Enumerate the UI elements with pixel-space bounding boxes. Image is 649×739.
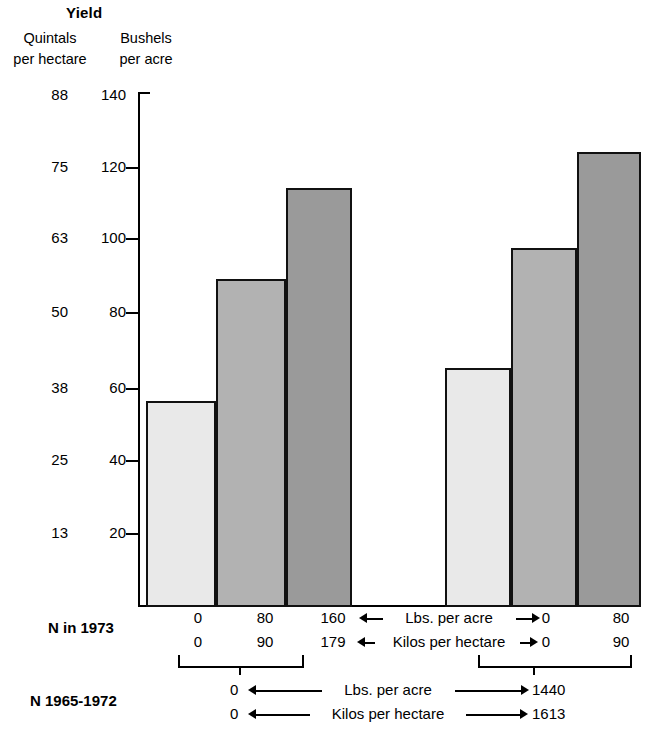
y-axis-right-tick-label: 20 bbox=[80, 524, 126, 541]
y-axis-line bbox=[138, 92, 140, 607]
n1973-kilos-unit: Kilos per hectare bbox=[374, 633, 524, 650]
n1973-left-lbs-0: 0 bbox=[176, 609, 220, 626]
n6572-lbs-start: 0 bbox=[230, 681, 238, 698]
chart-title: Yield bbox=[66, 4, 102, 21]
n1973-left-kilos-90: 90 bbox=[243, 633, 287, 650]
y-axis-left-tick-label: 25 bbox=[10, 451, 68, 468]
bar-group1-0[interactable] bbox=[146, 401, 216, 607]
y-axis-left-tick-label: 88 bbox=[10, 86, 68, 103]
arrow-right-icon bbox=[521, 685, 529, 695]
n1973-left-lbs-80: 80 bbox=[243, 609, 287, 626]
n1973-right-kilos-90: 90 bbox=[599, 633, 643, 650]
y-axis-right-tick-label: 60 bbox=[80, 379, 126, 396]
bar-group2-0[interactable] bbox=[445, 368, 511, 607]
n1973-right-lbs-80: 80 bbox=[599, 609, 643, 626]
group-bracket-left-stem bbox=[239, 666, 241, 675]
n6572-lbs-end: 1440 bbox=[532, 681, 565, 698]
n-1973-kilos-row: 0 90 179 Kilos per hectare 0 90 179 bbox=[138, 633, 649, 655]
group-bracket-right-stem bbox=[533, 666, 535, 675]
n-1973-lbs-row: 0 80 160 Lbs. per acre 0 80 160 bbox=[138, 609, 649, 631]
right-axis-caption-line1: Bushels bbox=[120, 30, 172, 46]
y-axis-left-tick-label: 50 bbox=[10, 303, 68, 320]
y-axis-right-tick-label: 140 bbox=[80, 86, 126, 103]
arrow-shaft bbox=[367, 618, 383, 620]
n6572-kilos-unit: Kilos per hectare bbox=[311, 705, 465, 722]
group-bracket-right bbox=[478, 655, 632, 668]
bar-group1-160[interactable] bbox=[286, 188, 352, 607]
y-axis-right-tick-label: 40 bbox=[80, 451, 126, 468]
y-axis-left-tick-label: 75 bbox=[10, 158, 68, 175]
arrow-shaft bbox=[256, 714, 310, 716]
n1973-lbs-unit: Lbs. per acre bbox=[384, 609, 514, 626]
y-axis-right-tick-label: 80 bbox=[80, 303, 126, 320]
arrow-right-icon bbox=[520, 709, 528, 719]
arrow-shaft bbox=[466, 714, 520, 716]
arrow-left-icon bbox=[248, 709, 256, 719]
group-bracket-left bbox=[178, 655, 304, 668]
bar-group2-80[interactable] bbox=[511, 248, 577, 607]
n1973-left-kilos-0: 0 bbox=[176, 633, 220, 650]
arrow-shaft bbox=[455, 690, 521, 692]
y-axis-right-tick-label: 100 bbox=[80, 229, 126, 246]
y-axis-left-tick-label: 63 bbox=[10, 229, 68, 246]
n1973-right-kilos-0: 0 bbox=[524, 633, 568, 650]
n1973-left-kilos-179: 179 bbox=[311, 633, 355, 650]
left-axis-caption-line2: per hectare bbox=[13, 51, 86, 67]
bar-group1-80[interactable] bbox=[216, 279, 286, 607]
left-axis-caption: Quintals per hectare bbox=[4, 28, 96, 70]
right-axis-caption-line2: per acre bbox=[119, 51, 172, 67]
arrow-shaft bbox=[256, 690, 322, 692]
left-axis-caption-line1: Quintals bbox=[23, 30, 76, 46]
arrow-left-icon bbox=[248, 685, 256, 695]
n6572-kilos-start: 0 bbox=[230, 705, 238, 722]
n1973-left-lbs-160: 160 bbox=[311, 609, 355, 626]
n1973-right-lbs-0: 0 bbox=[524, 609, 568, 626]
arrow-left-icon bbox=[357, 637, 365, 647]
n6572-lbs-unit: Lbs. per acre bbox=[323, 681, 453, 698]
n-1973-label: N in 1973 bbox=[48, 619, 114, 636]
n-1965-1972-kilos-row: 0 Kilos per hectare 1613 bbox=[180, 705, 600, 727]
n6572-kilos-end: 1613 bbox=[532, 705, 565, 722]
y-axis-left-tick-label: 13 bbox=[10, 524, 68, 541]
y-axis-right-tick-label: 120 bbox=[80, 158, 126, 175]
n-1965-1972-label: N 1965-1972 bbox=[30, 692, 117, 709]
n-1965-1972-lbs-row: 0 Lbs. per acre 1440 bbox=[180, 681, 600, 703]
arrow-left-icon bbox=[359, 613, 367, 623]
bar-group2-160[interactable] bbox=[577, 152, 641, 607]
y-axis-left-tick-label: 38 bbox=[10, 379, 68, 396]
right-axis-caption: Bushels per acre bbox=[100, 28, 192, 70]
